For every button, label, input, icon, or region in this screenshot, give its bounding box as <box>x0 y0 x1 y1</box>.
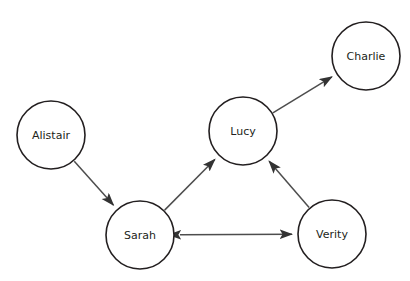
node-alistair[interactable]: Alistair <box>17 101 85 169</box>
node-verity[interactable]: Verity <box>298 200 366 268</box>
edges-layer <box>74 77 332 235</box>
node-sarah[interactable]: Sarah <box>106 201 174 269</box>
node-label-alistair: Alistair <box>32 129 70 142</box>
node-charlie[interactable]: Charlie <box>332 22 400 90</box>
node-lucy[interactable]: Lucy <box>209 97 277 165</box>
nodes-layer: AlistairSarahLucyVerityCharlie <box>17 22 400 269</box>
edge-sarah-verity <box>180 234 292 235</box>
edge-sarah-lucy <box>165 159 215 210</box>
edge-lucy-charlie <box>273 77 332 113</box>
node-label-lucy: Lucy <box>230 125 256 138</box>
node-label-sarah: Sarah <box>124 229 156 242</box>
node-label-charlie: Charlie <box>347 50 386 63</box>
edge-alistair-sarah <box>74 161 113 205</box>
node-label-verity: Verity <box>316 228 348 241</box>
graph-canvas: AlistairSarahLucyVerityCharlie <box>0 0 410 281</box>
edge-verity-lucy <box>269 161 309 207</box>
network-diagram: AlistairSarahLucyVerityCharlie <box>0 0 410 281</box>
